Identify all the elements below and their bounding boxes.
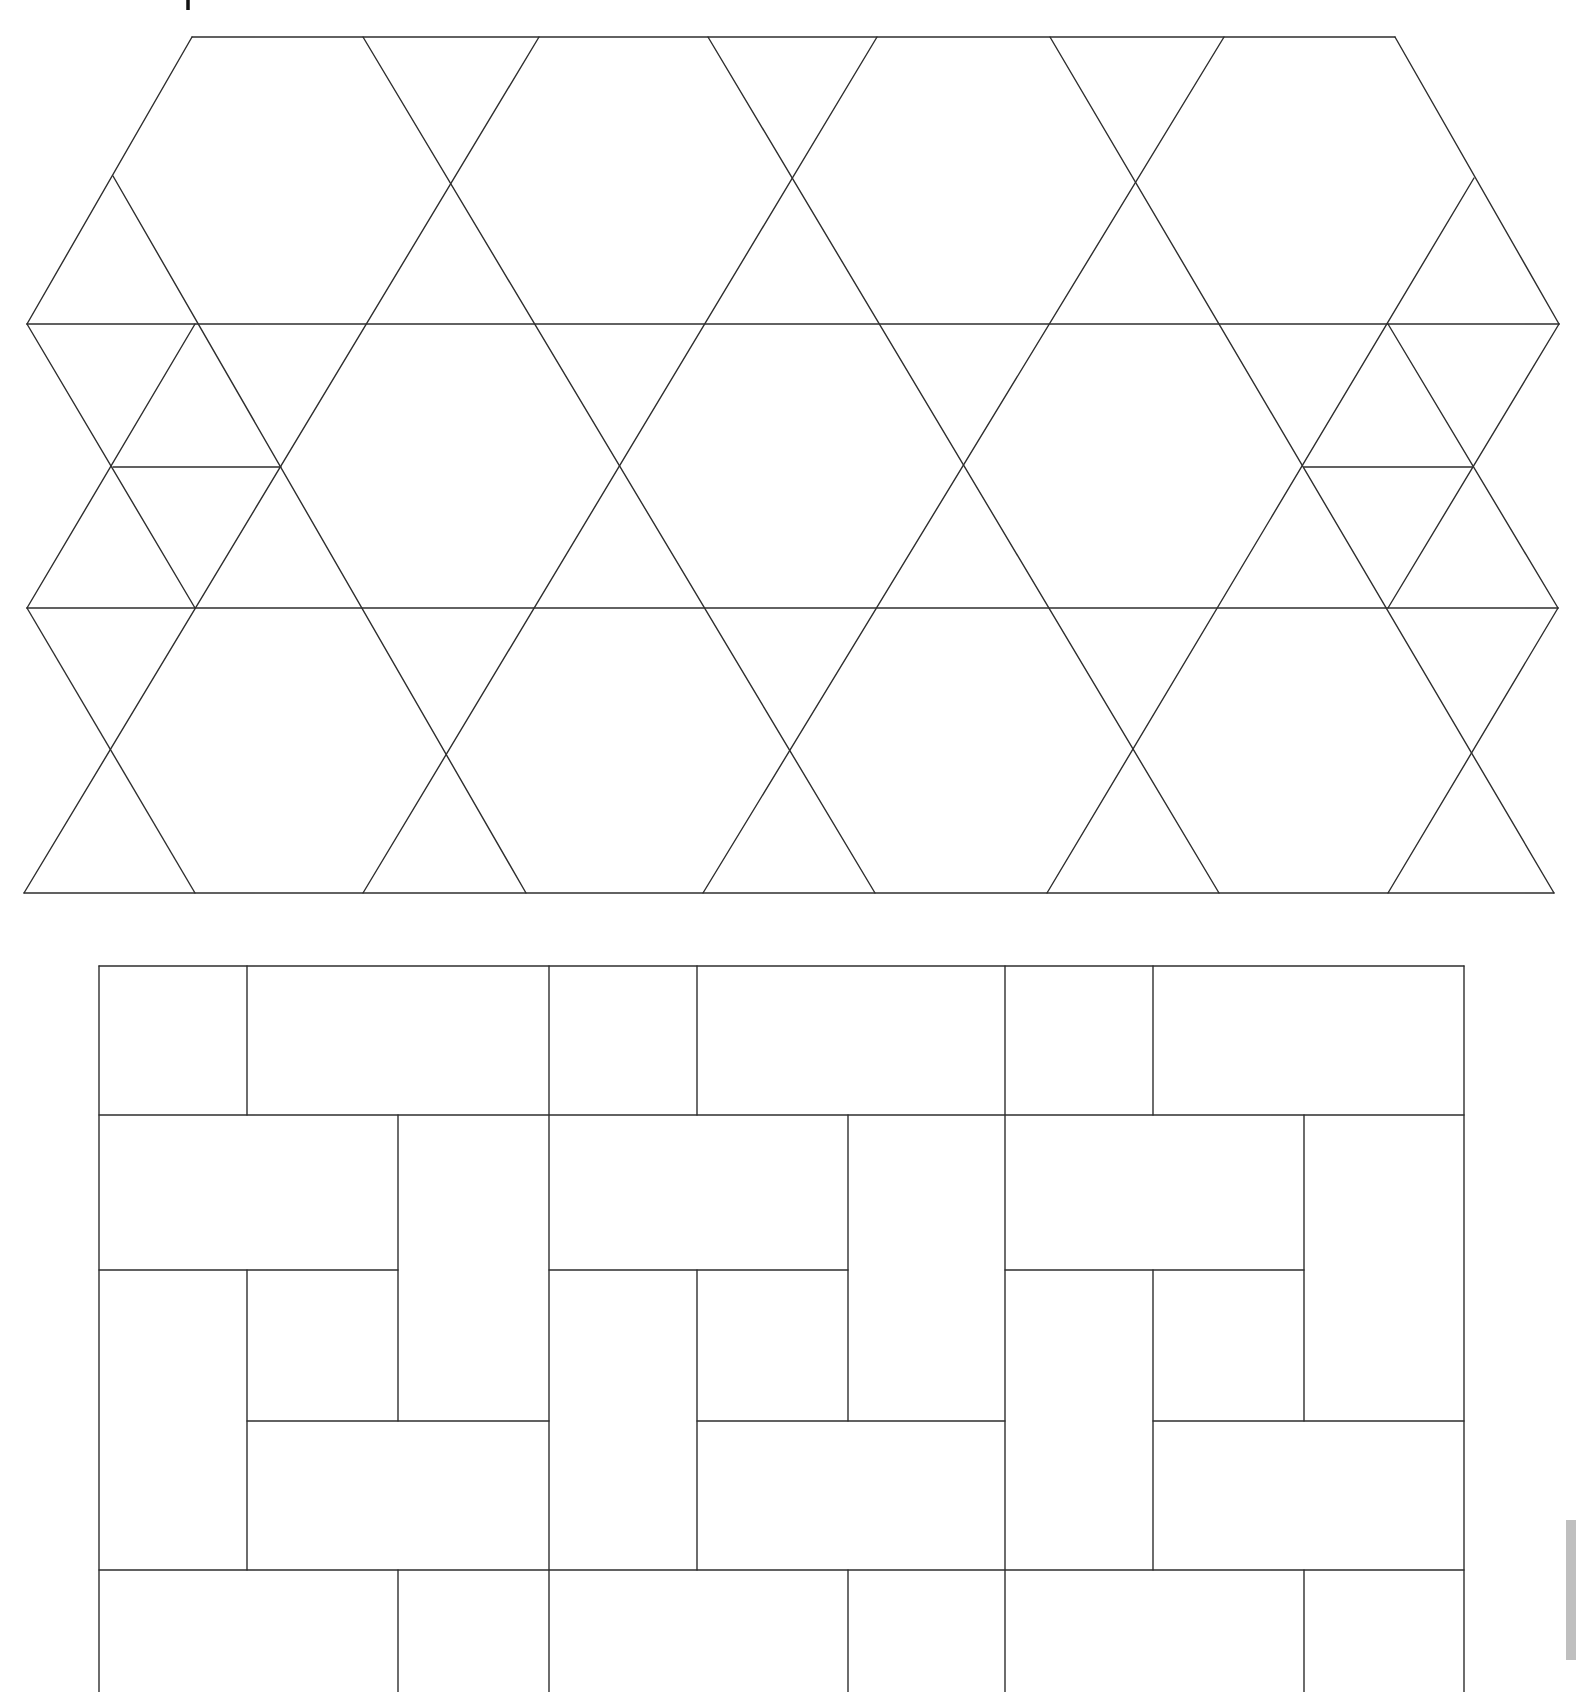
lattice-diagonal-line bbox=[703, 37, 1224, 893]
scan-edge-smudge bbox=[1566, 1520, 1576, 1660]
trihexagonal-lattice-figure bbox=[24, 37, 1559, 893]
lattice-diagonal-line bbox=[1047, 178, 1474, 893]
lattice-diagonal-line bbox=[1388, 608, 1558, 893]
pinwheel-rectangle-figure bbox=[99, 966, 1464, 1692]
lattice-diagonal-line bbox=[1395, 37, 1559, 324]
lattice-diagonal-line bbox=[113, 176, 526, 893]
lattice-diagonal-line bbox=[24, 37, 539, 893]
tiling-diagram-canvas bbox=[0, 0, 1577, 1692]
lattice-diagonal-line bbox=[27, 37, 192, 324]
